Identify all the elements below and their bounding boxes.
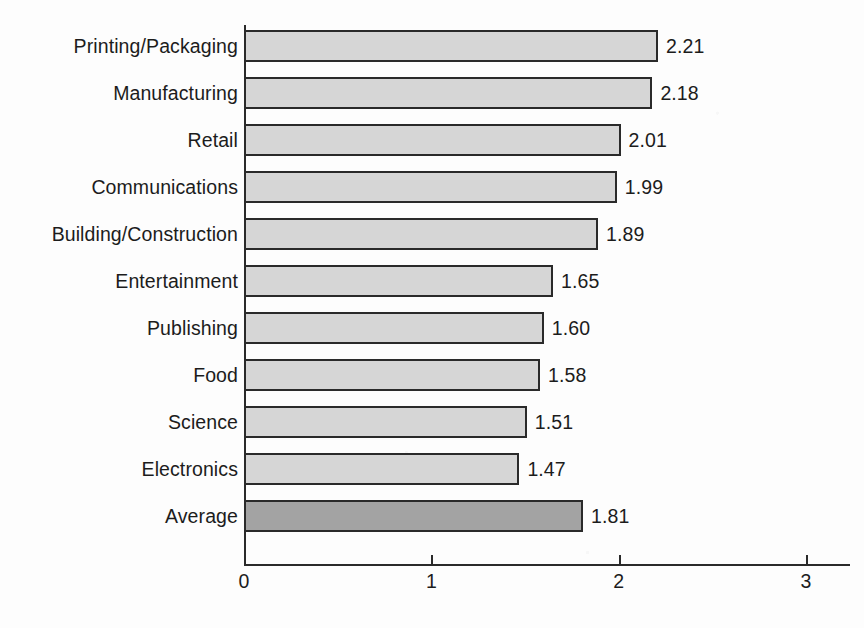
value-label: 1.99 <box>625 178 663 198</box>
bar <box>244 171 617 203</box>
bar <box>244 359 540 391</box>
x-axis-tick-label: 0 <box>239 572 250 592</box>
value-label: 1.89 <box>606 225 644 245</box>
bar <box>244 312 544 344</box>
bar <box>244 77 652 109</box>
x-axis-tick-label: 2 <box>613 572 624 592</box>
x-axis-tick <box>244 555 246 565</box>
x-axis-tick <box>431 555 433 565</box>
category-label: Manufacturing <box>0 84 238 104</box>
category-label: Publishing <box>0 319 238 339</box>
category-label: Printing/Packaging <box>0 37 238 57</box>
category-label: Communications <box>0 178 238 198</box>
x-axis-tick <box>619 555 621 565</box>
value-label: 1.51 <box>535 413 573 433</box>
x-axis-tick <box>806 555 808 565</box>
value-label: 1.58 <box>548 366 586 386</box>
category-label: Retail <box>0 131 238 151</box>
category-label: Building/Construction <box>0 225 238 245</box>
category-label: Science <box>0 413 238 433</box>
value-label: 2.01 <box>629 131 667 151</box>
value-label: 1.65 <box>561 272 599 292</box>
x-axis-tick-label: 3 <box>801 572 812 592</box>
category-label: Food <box>0 366 238 386</box>
y-axis-line <box>244 25 246 566</box>
value-label: 1.81 <box>591 507 629 527</box>
category-label: Average <box>0 507 238 527</box>
category-label: Entertainment <box>0 272 238 292</box>
plot-area: 2.21 2.18 2.01 1.99 1.89 1.65 1.60 1.58 … <box>244 25 864 560</box>
bar-chart: Printing/Packaging Manufacturing Retail … <box>0 0 864 628</box>
bar <box>244 265 553 297</box>
bar <box>244 453 519 485</box>
x-axis-line <box>244 564 850 566</box>
bar <box>244 218 598 250</box>
value-label: 1.60 <box>552 319 590 339</box>
value-label: 1.47 <box>527 460 565 480</box>
value-label: 2.21 <box>666 37 704 57</box>
x-axis-tick-label: 1 <box>426 572 437 592</box>
category-label: Electronics <box>0 460 238 480</box>
bar <box>244 30 658 62</box>
bar <box>244 406 527 438</box>
bar <box>244 124 621 156</box>
value-label: 2.18 <box>660 84 698 104</box>
bar <box>244 500 583 532</box>
